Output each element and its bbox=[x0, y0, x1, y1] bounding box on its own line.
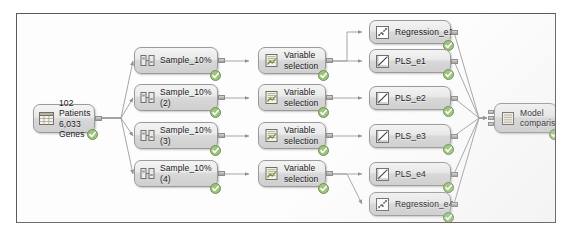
node-variable-selection-2[interactable]: Variable selection bbox=[258, 84, 326, 111]
node-regression-e4[interactable]: Regression_e4 bbox=[369, 192, 451, 216]
sample-icon bbox=[139, 165, 156, 182]
line-plot-icon bbox=[374, 90, 391, 107]
variable-selection-icon bbox=[263, 89, 280, 106]
node-label: Variable selection bbox=[282, 87, 318, 108]
output-port[interactable] bbox=[218, 171, 225, 176]
scatter-plot-icon bbox=[374, 24, 391, 41]
node-pls-e3[interactable]: PLS_e3 bbox=[369, 124, 451, 148]
node-label: PLS_e1 bbox=[393, 56, 426, 66]
node-data-source[interactable]: 102 Patients 6,033 Genes bbox=[33, 104, 95, 133]
output-port[interactable] bbox=[326, 133, 333, 138]
node-variable-selection-3[interactable]: Variable selection bbox=[258, 122, 326, 149]
node-label: PLS_e2 bbox=[393, 93, 426, 103]
node-sample-4[interactable]: Sample_10% (4) bbox=[134, 160, 218, 187]
node-label: Sample_10% (3) bbox=[158, 125, 212, 146]
variable-selection-icon bbox=[263, 165, 280, 182]
input-port[interactable] bbox=[488, 116, 494, 120]
status-complete-icon bbox=[443, 66, 454, 77]
node-label: Sample_10% (4) bbox=[158, 163, 212, 184]
input-port-group[interactable] bbox=[488, 110, 495, 126]
status-complete-icon bbox=[318, 67, 329, 78]
node-label: Regression_e4 bbox=[393, 199, 453, 209]
status-complete-icon bbox=[210, 142, 221, 153]
input-port[interactable] bbox=[488, 122, 494, 126]
variable-selection-icon bbox=[263, 127, 280, 144]
output-port[interactable] bbox=[326, 95, 333, 100]
node-label: Variable selection bbox=[282, 163, 318, 184]
line-plot-icon bbox=[374, 128, 391, 145]
model-comparison-icon bbox=[499, 110, 516, 127]
status-complete-icon bbox=[318, 142, 329, 153]
node-model-comparison[interactable]: Model comparison bbox=[494, 103, 556, 133]
output-port[interactable] bbox=[218, 95, 225, 100]
node-label: Regression_e1 bbox=[393, 27, 453, 37]
status-complete-icon bbox=[87, 126, 98, 137]
status-complete-icon bbox=[549, 126, 556, 137]
output-port[interactable] bbox=[326, 58, 333, 63]
node-variable-selection-4[interactable]: Variable selection bbox=[258, 160, 326, 187]
status-complete-icon bbox=[443, 103, 454, 114]
output-port[interactable] bbox=[326, 171, 333, 176]
node-sample-2[interactable]: Sample_10% (2) bbox=[134, 84, 218, 111]
output-port[interactable] bbox=[451, 59, 458, 64]
scatter-plot-icon bbox=[374, 196, 391, 213]
status-complete-icon bbox=[443, 179, 454, 190]
sample-icon bbox=[139, 127, 156, 144]
variable-selection-icon bbox=[263, 52, 280, 69]
node-pls-e1[interactable]: PLS_e1 bbox=[369, 49, 451, 73]
node-label: Variable selection bbox=[282, 125, 318, 146]
node-variable-selection-1[interactable]: Variable selection bbox=[258, 47, 326, 74]
node-pls-e2[interactable]: PLS_e2 bbox=[369, 86, 451, 110]
output-port[interactable] bbox=[451, 202, 458, 207]
status-complete-icon bbox=[210, 67, 221, 78]
node-pls-e4[interactable]: PLS_e4 bbox=[369, 162, 451, 186]
node-label: Sample_10% bbox=[158, 55, 212, 65]
workflow-canvas[interactable]: 102 Patients 6,033 Genes Sampl bbox=[16, 13, 556, 223]
output-port[interactable] bbox=[218, 58, 225, 63]
output-port[interactable] bbox=[451, 172, 458, 177]
line-plot-icon bbox=[374, 53, 391, 70]
output-port[interactable] bbox=[451, 30, 458, 35]
status-complete-icon bbox=[443, 141, 454, 152]
sample-icon bbox=[139, 52, 156, 69]
input-port[interactable] bbox=[488, 110, 494, 114]
line-plot-icon bbox=[374, 166, 391, 183]
status-complete-icon bbox=[443, 37, 454, 48]
node-sample-3[interactable]: Sample_10% (3) bbox=[134, 122, 218, 149]
sample-icon bbox=[139, 89, 156, 106]
output-port[interactable] bbox=[451, 134, 458, 139]
workflow-screenshot: 102 Patients 6,033 Genes Sampl bbox=[0, 0, 585, 245]
status-complete-icon bbox=[210, 104, 221, 115]
status-complete-icon bbox=[318, 104, 329, 115]
status-complete-icon bbox=[210, 180, 221, 191]
output-port[interactable] bbox=[95, 116, 102, 121]
data-table-icon bbox=[38, 110, 55, 127]
node-label: Variable selection bbox=[282, 50, 318, 71]
node-sample-1[interactable]: Sample_10% bbox=[134, 47, 218, 74]
output-port[interactable] bbox=[451, 96, 458, 101]
node-label: Sample_10% (2) bbox=[158, 87, 212, 108]
node-label: PLS_e4 bbox=[393, 169, 426, 179]
node-regression-e1[interactable]: Regression_e1 bbox=[369, 20, 451, 44]
status-complete-icon bbox=[443, 209, 454, 220]
output-port[interactable] bbox=[218, 133, 225, 138]
status-complete-icon bbox=[318, 180, 329, 191]
node-label: PLS_e3 bbox=[393, 131, 426, 141]
